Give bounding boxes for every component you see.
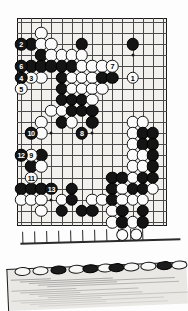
stone-move-number: 3 <box>26 72 37 84</box>
grid-line-vertical <box>163 18 164 226</box>
star-point <box>131 54 134 57</box>
numbered-stone-6[interactable]: 6 <box>15 60 28 73</box>
strip-white-stone <box>32 266 48 275</box>
fragment-baseline <box>20 238 180 244</box>
skewed-scan-strip <box>0 256 188 311</box>
black-stone[interactable] <box>86 205 99 218</box>
strip-white-stone <box>140 261 156 270</box>
numbered-stone-10[interactable]: 10 <box>25 127 38 140</box>
star-point <box>91 132 94 135</box>
black-stone[interactable] <box>126 38 139 51</box>
fragment-tick <box>94 230 96 242</box>
strip-black-stone <box>50 265 66 274</box>
stone-move-number: 12 <box>16 150 27 162</box>
strip-black-stone <box>156 261 172 270</box>
star-point <box>50 198 53 201</box>
stone-move-number: 9 <box>26 150 37 162</box>
fragment-tick <box>106 229 108 241</box>
numbered-stone-13[interactable]: 13 <box>45 182 58 195</box>
white-stone[interactable] <box>96 82 109 95</box>
fragment-tick <box>46 231 48 243</box>
white-stone[interactable] <box>35 205 48 218</box>
strip-black-stone <box>82 264 98 273</box>
black-stone[interactable] <box>136 216 149 229</box>
strip-white-stone <box>14 267 30 276</box>
fragment-tick <box>58 231 60 243</box>
numbered-stone-12[interactable]: 12 <box>15 149 28 162</box>
stone-move-number: 7 <box>107 61 118 73</box>
strip-black-stone <box>108 263 124 272</box>
fragment-tick <box>70 230 72 242</box>
white-stone[interactable] <box>35 160 48 173</box>
strip-white-stone <box>123 262 139 271</box>
numbered-stone-1[interactable]: 1 <box>126 71 139 84</box>
stone-move-number: 11 <box>26 172 37 184</box>
fragment-tick <box>34 231 36 243</box>
stone-move-number: 6 <box>16 61 27 73</box>
black-stone[interactable] <box>55 205 68 218</box>
fragment-rotation-group <box>12 228 188 250</box>
stone-move-number: 5 <box>16 83 27 95</box>
star-point <box>50 132 53 135</box>
numbered-stone-11[interactable]: 11 <box>25 171 38 184</box>
scan-smear-lines <box>6 256 188 260</box>
fragment-tick <box>82 230 84 242</box>
fragment-tick <box>22 232 24 244</box>
stone-move-number: 10 <box>26 128 37 140</box>
fragment-tick <box>142 228 144 240</box>
cut-off-diagram-fragment <box>12 228 188 250</box>
strip-rotation-group <box>6 256 188 311</box>
stone-move-number: 1 <box>127 72 138 84</box>
white-stone[interactable] <box>147 182 160 195</box>
go-board-diagram[interactable]: 12345678910111213 <box>17 18 167 226</box>
numbered-stone-8[interactable]: 8 <box>76 127 89 140</box>
strip-stones <box>6 256 188 260</box>
strip-white-stone <box>171 260 187 269</box>
numbered-stone-5[interactable]: 5 <box>15 82 28 95</box>
numbered-stone-2[interactable]: 2 <box>15 38 28 51</box>
stone-move-number: 8 <box>77 128 88 140</box>
black-stone[interactable] <box>65 194 78 207</box>
stone-move-number: 13 <box>46 183 57 195</box>
scanned-page: 12345678910111213 <box>0 0 188 311</box>
white-stone[interactable] <box>65 116 78 129</box>
black-stone[interactable] <box>86 116 99 129</box>
numbered-stone-7[interactable]: 7 <box>106 60 119 73</box>
stone-move-number: 2 <box>16 39 27 51</box>
